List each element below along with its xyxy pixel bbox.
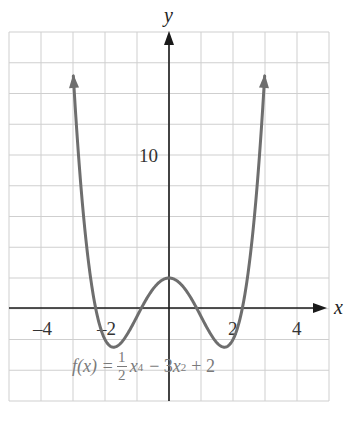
fraction-denominator: 2 [118, 368, 126, 383]
formula-x4-exp: 4 [138, 361, 144, 373]
formula-fraction: 1 2 [117, 350, 127, 383]
formula-tail: + 2 [191, 356, 215, 377]
x-axis-title: x [333, 296, 343, 318]
formula-x2-base: x [173, 356, 181, 377]
x-tick-label: 4 [292, 318, 302, 339]
y-axis-arrow-icon [164, 31, 174, 45]
fraction-numerator: 1 [118, 350, 126, 365]
formula-mid: − 3 [149, 356, 173, 377]
y-tick-label: 10 [139, 145, 158, 166]
formula-lhs: f(x) = [72, 356, 114, 377]
curve-arrow-icon [69, 74, 79, 88]
axes: x y [9, 4, 343, 401]
x-tick-label: –4 [32, 318, 53, 339]
curve-arrow-icon [259, 74, 269, 88]
formula-x4-base: x [130, 356, 138, 377]
function-label: f(x) = 1 2 x4 − 3x2 + 2 [72, 350, 215, 383]
y-axis-title: y [162, 4, 173, 27]
formula-x2-exp: 2 [181, 361, 187, 373]
x-axis-arrow-icon [313, 303, 327, 313]
